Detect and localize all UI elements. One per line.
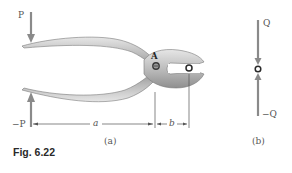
force-minus-q-label: −Q	[262, 110, 277, 119]
dimension-a-label: a	[93, 119, 98, 128]
dimension-b-label: b	[169, 119, 175, 128]
force-minus-q-arrow	[255, 73, 262, 116]
panel-a-sublabel: (a)	[104, 137, 116, 146]
panel-b-sublabel: (b)	[252, 137, 265, 146]
pliers-figure: P −P A a b (a) Q −Q (b) Fig. 6.22	[0, 0, 292, 173]
force-minus-p-label: −P	[12, 120, 26, 129]
force-q-arrow	[255, 20, 262, 65]
force-p-arrow	[27, 12, 35, 43]
pivot-pin-icon	[153, 63, 159, 69]
jaw-pin-icon	[186, 65, 192, 71]
pivot-a-label: A	[151, 52, 158, 61]
force-p-label: P	[18, 11, 24, 20]
force-q-label: Q	[263, 19, 270, 28]
lower-handle	[22, 70, 160, 102]
upper-handle	[22, 37, 160, 70]
pin-icon	[255, 66, 261, 72]
figure-caption: Fig. 6.22	[13, 146, 55, 158]
force-minus-p-arrow	[27, 92, 35, 127]
